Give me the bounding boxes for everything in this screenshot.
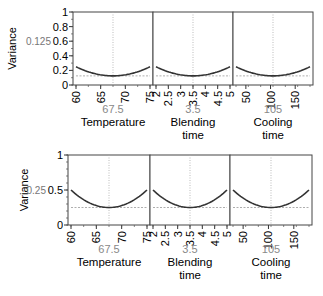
x-tick-label: 150: [289, 91, 301, 109]
x-tick-label: 50: [240, 91, 252, 103]
panel-temperature[interactable]: 6065707567.5Temperature: [65, 155, 153, 268]
x-tick-label: 3: [175, 91, 187, 97]
x-tick-label: 65: [95, 91, 107, 103]
x-tick-label: 4.5: [212, 91, 224, 106]
current-variance-value: 0.125: [26, 36, 51, 47]
factor-name: Temperature: [77, 256, 142, 268]
profile-row-1: Variance0.12500.20.40.60.816065707567.5T…: [6, 6, 313, 141]
current-factor-value: 3.5: [182, 243, 197, 255]
y-tick-label: 0.6: [53, 35, 68, 47]
x-tick-label: 50: [237, 231, 249, 243]
y-tick-label: 0.4: [53, 50, 68, 62]
x-tick-label: 5: [221, 231, 233, 237]
factor-name: Blending: [168, 256, 213, 268]
factor-name: Cooling: [254, 116, 293, 128]
x-tick-label: 2.5: [159, 231, 171, 246]
current-factor-value: 105: [264, 103, 282, 115]
x-tick-label: 70: [116, 231, 128, 243]
x-tick-label: 3: [172, 231, 184, 237]
factor-name: Blending: [171, 116, 216, 128]
factor-name: time: [260, 269, 282, 281]
x-tick-label: 150: [288, 231, 300, 249]
panel-blending-time[interactable]: 22.533.544.553.5Blendingtime: [150, 12, 236, 141]
panel-cooling-time[interactable]: 50100150105Coolingtime: [233, 12, 313, 141]
x-tick-label: 4: [199, 91, 211, 97]
factor-name: time: [182, 129, 204, 141]
x-tick-label: 60: [65, 231, 77, 243]
x-tick-label: 5: [224, 91, 236, 97]
y-tick-label: 0.8: [53, 21, 68, 33]
y-axis-label: Variance: [6, 27, 18, 70]
factor-name: Cooling: [252, 256, 291, 268]
y-tick-label: 1: [57, 149, 63, 161]
factor-name: Temperature: [81, 116, 146, 128]
x-tick-label: 4: [196, 231, 208, 237]
y-tick-label: 0.2: [53, 64, 68, 76]
x-tick-label: 2: [147, 231, 159, 237]
current-factor-value: 3.5: [185, 103, 200, 115]
x-tick-label: 65: [90, 231, 102, 243]
current-factor-value: 67.5: [98, 243, 119, 255]
y-tick-label: 0.5: [48, 184, 63, 196]
current-factor-value: 105: [262, 243, 280, 255]
variance-profile-chart: Variance0.12500.20.40.60.816065707567.5T…: [0, 0, 323, 296]
current-variance-value: 0.25: [27, 185, 47, 196]
panel-blending-time[interactable]: 22.533.544.553.5Blendingtime: [147, 155, 233, 281]
x-tick-label: 60: [70, 91, 82, 103]
factor-name: time: [262, 129, 284, 141]
profile-row-2: Variance0.2500.516065707567.5Temperature…: [18, 149, 312, 281]
x-tick-label: 2: [150, 91, 162, 97]
factor-name: time: [179, 269, 201, 281]
y-tick-label: 1: [62, 6, 68, 18]
x-tick-label: 4.5: [209, 231, 221, 246]
x-tick-label: 2.5: [162, 91, 174, 106]
y-tick-label: 0: [57, 219, 63, 231]
panel-cooling-time[interactable]: 50100150105Coolingtime: [230, 155, 312, 281]
panel-temperature[interactable]: 6065707567.5Temperature: [70, 12, 156, 128]
x-tick-label: 70: [119, 91, 131, 103]
y-tick-label: 0: [62, 79, 68, 91]
current-factor-value: 67.5: [102, 103, 123, 115]
